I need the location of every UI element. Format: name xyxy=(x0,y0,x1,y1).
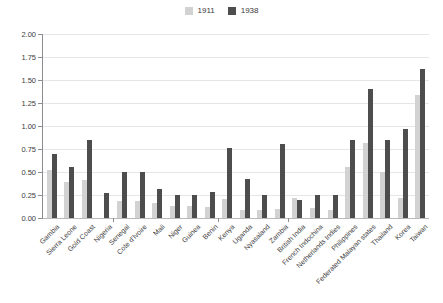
x-axis-category-labels: GambiaSierra LeoneGold CoastNigeriaSeneg… xyxy=(43,221,429,303)
bar-1938 xyxy=(227,148,232,218)
bar-1938 xyxy=(87,140,92,218)
bar-1938 xyxy=(333,195,338,218)
y-tick-label: 1.75 xyxy=(21,53,36,62)
bar-group xyxy=(96,34,114,218)
x-axis-label: Benin xyxy=(201,223,219,241)
bar-group xyxy=(201,34,219,218)
bar-1938 xyxy=(192,195,197,218)
legend-swatch-icon xyxy=(228,7,236,15)
legend-label: 1911 xyxy=(198,6,215,15)
bar-group xyxy=(411,34,429,218)
legend-swatch-icon xyxy=(185,7,193,15)
bar-1938 xyxy=(175,195,180,218)
y-tick-mark xyxy=(38,34,42,35)
legend-label: 1938 xyxy=(241,6,259,15)
y-tick-mark xyxy=(38,172,42,173)
bar-group xyxy=(376,34,394,218)
bar-group xyxy=(218,34,236,218)
bar-group xyxy=(394,34,412,218)
plot-area xyxy=(43,34,429,218)
y-tick-mark xyxy=(38,126,42,127)
y-tick-mark xyxy=(38,149,42,150)
y-tick-label: 0.00 xyxy=(21,214,36,223)
bar-group xyxy=(166,34,184,218)
bar-group xyxy=(148,34,166,218)
bar-1938 xyxy=(245,179,250,218)
bar-group xyxy=(183,34,201,218)
bar-group xyxy=(113,34,131,218)
bar-group xyxy=(271,34,289,218)
y-tick-label: 0.50 xyxy=(21,168,36,177)
bar-1938 xyxy=(157,189,162,218)
bar-group xyxy=(43,34,61,218)
bar-1938 xyxy=(210,192,215,218)
bar-group xyxy=(359,34,377,218)
bar-1938 xyxy=(262,195,267,218)
bar-1938 xyxy=(104,193,109,218)
bar-group xyxy=(306,34,324,218)
bar-group xyxy=(78,34,96,218)
bar-1938 xyxy=(140,172,145,218)
y-tick-label: 1.00 xyxy=(21,122,36,131)
legend-entry-1911: 1911 xyxy=(185,6,215,15)
bar-1938 xyxy=(52,154,57,218)
bar-1938 xyxy=(368,89,373,218)
x-axis-label: Taiwan xyxy=(409,223,430,244)
bar-1938 xyxy=(280,144,285,218)
y-tick-label: 1.50 xyxy=(21,76,36,85)
y-tick-label: 2.00 xyxy=(21,30,36,39)
legend-entry-1938: 1938 xyxy=(228,6,259,15)
y-tick-mark xyxy=(38,57,42,58)
bar-group xyxy=(131,34,149,218)
y-tick-mark xyxy=(38,218,42,219)
bar-1938 xyxy=(420,69,425,218)
bar-groups xyxy=(43,34,429,218)
y-tick-label: 0.75 xyxy=(21,145,36,154)
bar-group xyxy=(236,34,254,218)
bar-1938 xyxy=(403,129,408,218)
y-tick-mark xyxy=(38,80,42,81)
bar-group xyxy=(61,34,79,218)
x-axis-label: Guinea xyxy=(180,223,202,245)
bar-chart: 19111938 0.000.250.500.751.001.251.501.7… xyxy=(0,0,443,303)
bar-1938 xyxy=(315,195,320,218)
bar-1938 xyxy=(350,140,355,218)
y-tick-label: 0.25 xyxy=(21,191,36,200)
bar-group xyxy=(341,34,359,218)
x-axis-label: Mali xyxy=(152,223,167,238)
bar-1938 xyxy=(385,140,390,218)
y-axis-tick-labels: 0.000.250.500.751.001.251.501.752.00 xyxy=(0,0,40,303)
chart-legend: 19111938 xyxy=(0,6,443,15)
bar-group xyxy=(254,34,272,218)
gridline xyxy=(43,218,429,219)
bar-1938 xyxy=(122,172,127,218)
bar-1938 xyxy=(69,167,74,218)
bar-group xyxy=(289,34,307,218)
y-tick-mark xyxy=(38,195,42,196)
y-tick-label: 1.25 xyxy=(21,99,36,108)
bar-1938 xyxy=(297,200,302,218)
bar-group xyxy=(324,34,342,218)
y-tick-mark xyxy=(38,103,42,104)
